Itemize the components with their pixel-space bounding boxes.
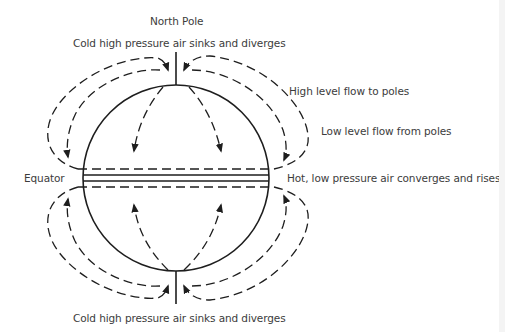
south-sinking-caption: Cold high pressure air sinks and diverge… (73, 312, 286, 324)
atmospheric-circulation-diagram: North Pole Cold high pressure air sinks … (0, 0, 505, 332)
south-left-cell-arrows (48, 187, 168, 298)
high-level-flow-label: High level flow to poles (289, 85, 409, 97)
north-sinking-caption: Cold high pressure air sinks and diverge… (73, 37, 286, 49)
south-right-cell-arrows (184, 187, 308, 300)
diagram-graphics (0, 0, 505, 332)
north-pole-label: North Pole (150, 15, 203, 27)
globe (83, 85, 269, 271)
page-edge (499, 0, 505, 332)
equator-rising-caption: Hot, low pressure air converges and rise… (287, 172, 500, 184)
equator-label: Equator (24, 172, 65, 184)
north-right-cell-arrows (184, 56, 308, 169)
low-level-flow-label: Low level flow from poles (321, 125, 452, 137)
equator-lines (78, 169, 274, 187)
north-left-cell-arrows (48, 58, 168, 169)
